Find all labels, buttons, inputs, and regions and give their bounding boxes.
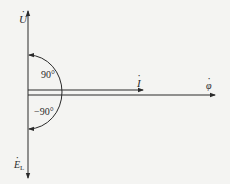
phi-label: φ (206, 81, 212, 91)
i-label: I (137, 78, 141, 89)
plus-90-label: 90° (41, 70, 55, 80)
diagram-graphics (0, 0, 230, 184)
minus-90-label: −90° (34, 107, 54, 117)
el-label: EL (14, 160, 24, 172)
u-label: U (19, 14, 27, 25)
phasor-diagram: U 90° −90° I φ EL (0, 0, 230, 184)
